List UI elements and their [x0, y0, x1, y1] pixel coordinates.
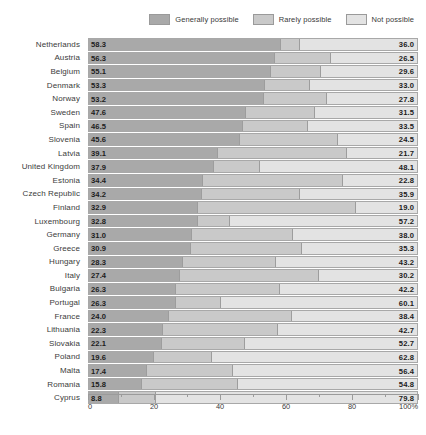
table-row[interactable]: 56.326.5: [88, 52, 418, 65]
table-row[interactable]: 47.631.5: [88, 106, 418, 119]
legend-swatch-not-possible: [346, 14, 367, 25]
table-row[interactable]: 32.919.0: [88, 201, 418, 214]
category-label: Estonia: [0, 174, 84, 187]
category-label: Norway: [0, 92, 84, 105]
table-row[interactable]: 26.342.2: [88, 283, 418, 296]
bar-segment-rarely-possible: [191, 229, 293, 240]
table-row[interactable]: 22.152.7: [88, 337, 418, 350]
bar-segment-rarely-possible: [239, 134, 337, 145]
bar-value-left: 47.6: [91, 108, 106, 117]
category-label: Malta: [0, 364, 84, 377]
category-label: Sweden: [0, 106, 84, 119]
stacked-bar: [88, 364, 418, 377]
category-label: Bulgaria: [0, 283, 84, 296]
legend-label-not-possible: Not possible: [372, 15, 414, 24]
bar-value-left: 39.1: [91, 149, 106, 158]
table-row[interactable]: 17.456.4: [88, 364, 418, 377]
bar-segment-generally-possible: [89, 93, 263, 104]
legend-item-generally-possible[interactable]: Generally possible: [149, 14, 239, 25]
bar-value-right: 24.5: [399, 135, 414, 144]
bar-segment-rarely-possible: [242, 121, 308, 132]
bar-segment-rarely-possible: [197, 202, 355, 213]
stacked-bar: [88, 201, 418, 214]
bar-segment-rarely-possible: [270, 66, 320, 77]
stacked-bar: [88, 283, 418, 296]
table-row[interactable]: 53.227.8: [88, 92, 418, 105]
stacked-bar: [88, 310, 418, 323]
bar-segment-not-possible: [237, 379, 417, 390]
axis-tick-minor: [253, 394, 254, 397]
bar-value-left: 19.6: [91, 352, 106, 361]
bar-segment-not-possible: [220, 297, 417, 308]
value-axis: 020406080100%: [88, 394, 418, 424]
bar-segment-not-possible: [229, 216, 417, 227]
bar-segment-rarely-possible: [162, 324, 277, 335]
axis-tick-major: [286, 394, 287, 400]
table-row[interactable]: 46.533.5: [88, 120, 418, 133]
category-label: Luxembourg: [0, 215, 84, 228]
bar-segment-rarely-possible: [213, 161, 259, 172]
category-label: Greece: [0, 242, 84, 255]
bar-segment-generally-possible: [89, 53, 274, 64]
table-row[interactable]: 24.038.4: [88, 310, 418, 323]
table-row[interactable]: 34.235.9: [88, 188, 418, 201]
stacked-bar: [88, 256, 418, 269]
category-label: France: [0, 310, 84, 323]
stacked-bar: [88, 160, 418, 173]
stacked-bar: [88, 337, 418, 350]
bar-value-left: 55.1: [91, 67, 106, 76]
bar-value-right: 33.0: [399, 81, 414, 90]
stacked-bar: [88, 79, 418, 92]
axis-tick-minor: [319, 394, 320, 397]
category-label: Hungary: [0, 256, 84, 269]
plot-area: 58.336.056.326.555.129.653.333.053.227.8…: [88, 38, 418, 392]
table-row[interactable]: 19.662.8: [88, 351, 418, 364]
bar-segment-rarely-possible: [202, 175, 342, 186]
table-row[interactable]: 34.422.8: [88, 174, 418, 187]
category-label: United Kingdom: [0, 160, 84, 173]
table-row[interactable]: 55.129.6: [88, 65, 418, 78]
table-row[interactable]: 32.857.2: [88, 215, 418, 228]
table-row[interactable]: 27.430.2: [88, 269, 418, 282]
table-row[interactable]: 53.333.0: [88, 79, 418, 92]
bar-value-left: 27.4: [91, 271, 106, 280]
table-row[interactable]: 26.360.1: [88, 296, 418, 309]
bar-segment-not-possible: [275, 257, 417, 268]
bar-segment-not-possible: [259, 161, 417, 172]
stacked-bar: [88, 174, 418, 187]
bar-value-left: 37.9: [91, 162, 106, 171]
table-row[interactable]: 15.854.8: [88, 378, 418, 391]
bar-segment-rarely-possible: [201, 189, 299, 200]
bar-value-right: 43.2: [399, 257, 414, 266]
table-row[interactable]: 45.624.5: [88, 133, 418, 146]
table-row[interactable]: 31.038.0: [88, 228, 418, 241]
bar-value-right: 38.4: [399, 312, 414, 321]
axis-tick-major: [154, 394, 155, 400]
bar-value-right: 33.5: [399, 121, 414, 130]
legend-item-not-possible[interactable]: Not possible: [346, 14, 414, 25]
stacked-bar: [88, 242, 418, 255]
bar-rows: 58.336.056.326.555.129.653.333.053.227.8…: [88, 38, 418, 392]
legend-label-generally-possible: Generally possible: [175, 15, 239, 24]
table-row[interactable]: 37.948.1: [88, 160, 418, 173]
bar-value-left: 45.6: [91, 135, 106, 144]
table-row[interactable]: 22.342.7: [88, 323, 418, 336]
bar-value-left: 22.3: [91, 325, 106, 334]
bar-segment-rarely-possible: [175, 297, 220, 308]
bar-value-right: 29.6: [399, 67, 414, 76]
axis-tick-minor: [121, 394, 122, 397]
category-axis-labels: NetherlandsAustriaBelgiumDenmarkNorwaySw…: [0, 38, 84, 392]
table-row[interactable]: 39.121.7: [88, 147, 418, 160]
table-row[interactable]: 30.935.3: [88, 242, 418, 255]
table-row[interactable]: 58.336.0: [88, 38, 418, 51]
stacked-bar: [88, 188, 418, 201]
legend-swatch-generally-possible: [149, 14, 170, 25]
bar-value-left: 31.0: [91, 230, 106, 239]
bar-segment-rarely-possible: [197, 216, 230, 227]
bar-value-right: 42.2: [399, 284, 414, 293]
category-label: Slovakia: [0, 337, 84, 350]
legend-item-rarely-possible[interactable]: Rarely possible: [253, 14, 332, 25]
bar-value-right: 22.8: [399, 176, 414, 185]
bar-value-left: 56.3: [91, 53, 106, 62]
table-row[interactable]: 28.343.2: [88, 256, 418, 269]
